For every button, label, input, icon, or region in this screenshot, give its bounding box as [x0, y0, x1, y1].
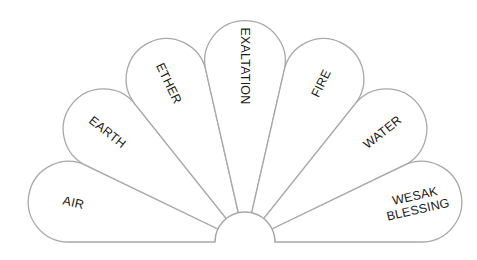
petals-group: AIREARTHETHEREXALTATIONFIREWATERWESAKBLE…: [28, 21, 462, 242]
fan-diagram: AIREARTHETHEREXALTATIONFIREWATERWESAKBLE…: [0, 0, 477, 260]
petal-label-exaltation: EXALTATION: [238, 27, 252, 104]
